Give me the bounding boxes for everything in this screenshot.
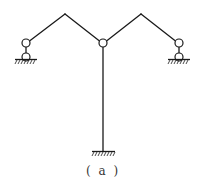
- right-lower-inclined-member: [141, 14, 176, 41]
- figure-caption: ( a ): [0, 164, 206, 178]
- bottom-ground-hatch-icon: [92, 152, 115, 156]
- right-upper-hinge-icon: [175, 39, 183, 47]
- left-lower-inclined-member: [30, 14, 66, 41]
- center-hinge-icon: [99, 39, 107, 47]
- left-roller-support: [15, 39, 37, 64]
- bottom-fixed-support: [92, 152, 115, 157]
- left-upper-inclined-member: [65, 14, 100, 41]
- frame-members: [30, 14, 176, 151]
- right-upper-inclined-member: [107, 14, 142, 41]
- structural-frame-diagram: [0, 0, 206, 188]
- right-roller-support: [168, 39, 190, 64]
- left-upper-hinge-icon: [22, 39, 30, 47]
